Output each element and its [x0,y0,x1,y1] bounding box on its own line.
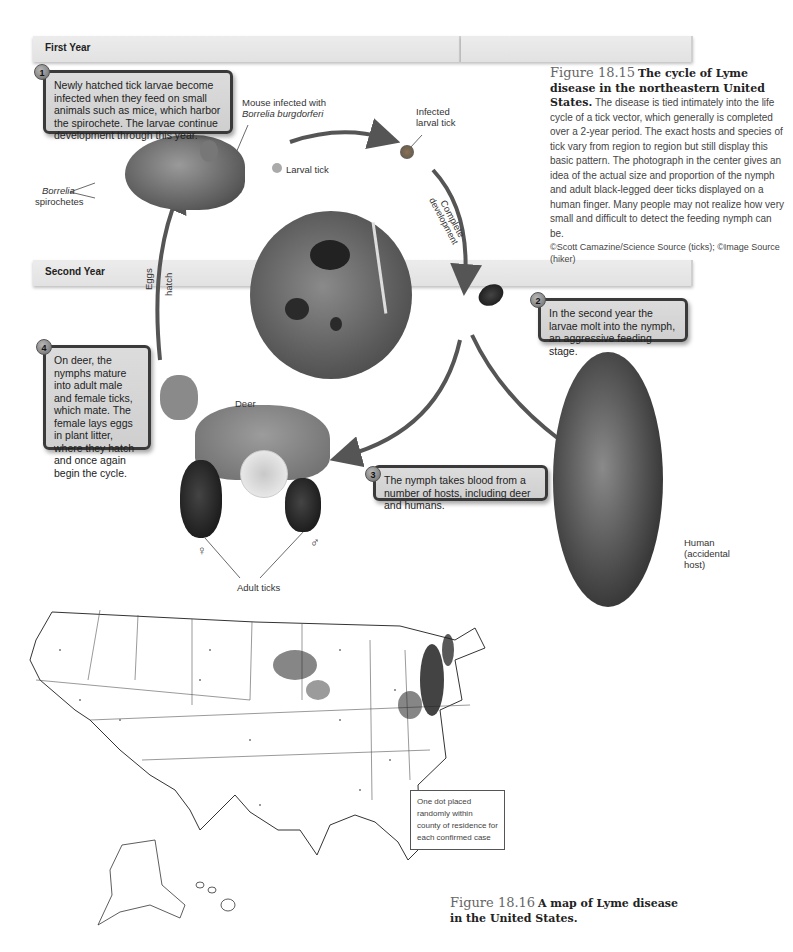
map-legend-text: One dot placed randomly within county of… [417,797,498,842]
figure-18-16-number: Figure 18.16 [450,895,535,910]
alaska-outline [98,840,185,925]
us-lyme-map [0,0,793,952]
hawaii-outline [196,882,235,911]
figure-18-16-caption: Figure 18.16 A map of Lyme disease in th… [450,896,690,926]
map-legend: One dot placed randomly within county of… [410,790,505,850]
